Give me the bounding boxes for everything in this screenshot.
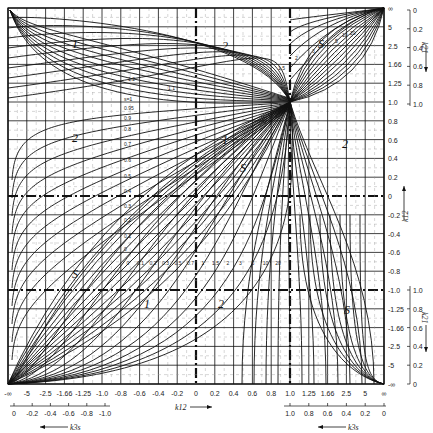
svg-text:0: 0 (127, 260, 130, 266)
region-label: 2 (222, 39, 228, 53)
y-tick-label: ∞ (388, 5, 393, 12)
svg-text:0.2: 0.2 (124, 217, 131, 223)
svg-text:1.0: 1.0 (413, 287, 423, 294)
y-tick-label: -0.8 (388, 268, 400, 275)
svg-text:-0.4: -0.4 (44, 410, 56, 417)
svg-text:20: 20 (275, 260, 281, 266)
nomogram-chart: -∞-5-2.5-1.66-1.25-1.0-0.8-0.6-0.4-0.200… (0, 0, 433, 433)
x-tick-label: 0.2 (210, 390, 220, 397)
y-tick-label: 0.4 (388, 155, 398, 162)
svg-text:k12: k12 (401, 210, 410, 222)
x-tick-label: -1.66 (56, 390, 72, 397)
svg-text:0.7: 0.7 (124, 141, 131, 147)
svg-text:0.6: 0.6 (413, 63, 423, 70)
y-tick-label: 5 (388, 24, 392, 31)
svg-text:0.4: 0.4 (124, 188, 131, 194)
svg-text:20: 20 (350, 30, 356, 36)
y-tick-label: 1.25 (388, 80, 402, 87)
y-tick-label: 1.66 (388, 61, 402, 68)
svg-text:0.5: 0.5 (175, 260, 182, 266)
svg-text:5: 5 (335, 38, 338, 44)
region-label: 2 (218, 297, 224, 311)
region-label: S (318, 37, 324, 51)
y-tick-label: 2.5 (388, 43, 398, 50)
region-label: 1 (72, 37, 78, 51)
svg-text:k12: k12 (175, 403, 187, 412)
y-tick-label: -1.0 (388, 287, 400, 294)
svg-text:0: 0 (382, 410, 386, 417)
svg-text:s=1: s=1 (124, 96, 132, 102)
svg-text:10: 10 (263, 260, 269, 266)
svg-text:1.5: 1.5 (278, 65, 285, 71)
svg-text:2: 2 (227, 260, 230, 266)
x-tick-label: -1.0 (96, 390, 108, 397)
y-tick-label: 1.0 (388, 99, 398, 106)
svg-text:k3s: k3s (348, 423, 359, 432)
x-tick-label: 1.25 (302, 390, 316, 397)
svg-text:0: 0 (413, 7, 417, 14)
region-label: S (240, 161, 246, 175)
svg-text:0.8: 0.8 (124, 126, 131, 132)
y-tick-label: -0.6 (388, 249, 400, 256)
svg-text:0.1: 0.1 (137, 260, 144, 266)
svg-text:0.8: 0.8 (413, 82, 423, 89)
svg-text:0.3: 0.3 (124, 203, 131, 209)
svg-text:3: 3 (239, 260, 242, 266)
y-tick-label: -0.2 (388, 212, 400, 219)
x-tick-label: 1.66 (321, 390, 335, 397)
svg-text:5: 5 (252, 260, 255, 266)
x-tick-label: -0.6 (134, 390, 146, 397)
x-tick-label: 2.5 (342, 390, 352, 397)
svg-text:0.9: 0.9 (124, 115, 131, 121)
x-tick-label: ∞ (382, 390, 387, 397)
svg-text:0.2: 0.2 (413, 26, 423, 33)
svg-text:0: 0 (124, 246, 127, 252)
region-label: 1 (144, 297, 150, 311)
y-tick-label: -∞ (388, 381, 395, 388)
svg-text:0: 0 (12, 410, 16, 417)
svg-text:1.0: 1.0 (413, 101, 423, 108)
x-tick-label: -1.25 (75, 390, 91, 397)
x-tick-label: 0.4 (229, 390, 239, 397)
y-tick-label: -1.66 (388, 325, 404, 332)
svg-text:0.95: 0.95 (124, 105, 134, 111)
svg-text:0.6: 0.6 (124, 157, 131, 163)
svg-text:0.1: 0.1 (124, 233, 131, 239)
svg-text:0.6: 0.6 (323, 410, 333, 417)
y-tick-label: -1.25 (388, 306, 404, 313)
svg-text:0.7: 0.7 (187, 260, 194, 266)
svg-text:1.5: 1.5 (212, 260, 219, 266)
region-label: 1 (222, 133, 228, 147)
svg-text:2: 2 (295, 55, 298, 61)
svg-text:0.2: 0.2 (150, 260, 157, 266)
svg-text:0.4: 0.4 (342, 410, 352, 417)
region-label: 2 (72, 131, 78, 145)
svg-text:1.2: 1.2 (128, 76, 135, 82)
svg-text:0.8: 0.8 (304, 410, 314, 417)
y-tick-label: 0.2 (388, 174, 398, 181)
x-tick-label: 0.8 (266, 390, 276, 397)
svg-text:-1.0: -1.0 (99, 410, 111, 417)
region-label: 2 (342, 137, 348, 151)
svg-text:0.5: 0.5 (124, 173, 131, 179)
x-tick-label: -5 (24, 390, 30, 397)
region-label: S (344, 303, 350, 317)
region-label: S (72, 267, 78, 281)
svg-text:0.4: 0.4 (413, 343, 423, 350)
svg-text:k3s: k3s (70, 423, 81, 432)
x-tick-label: -0.2 (171, 390, 183, 397)
svg-text:k21: k21 (420, 42, 429, 54)
svg-text:-0.2: -0.2 (26, 410, 38, 417)
svg-text:-0.8: -0.8 (81, 410, 93, 417)
x-tick-label: -0.8 (115, 390, 127, 397)
y-tick-label: 0 (388, 193, 392, 200)
y-tick-label: 0.8 (388, 118, 398, 125)
svg-text:0.2: 0.2 (360, 410, 370, 417)
svg-text:1.1: 1.1 (168, 85, 175, 91)
svg-text:1.0: 1.0 (285, 410, 295, 417)
svg-text:1: 1 (202, 260, 205, 266)
svg-text:0: 0 (413, 381, 417, 388)
svg-text:0.2: 0.2 (413, 362, 423, 369)
x-tick-label: 0 (194, 390, 198, 397)
svg-text:0.6: 0.6 (413, 325, 423, 332)
